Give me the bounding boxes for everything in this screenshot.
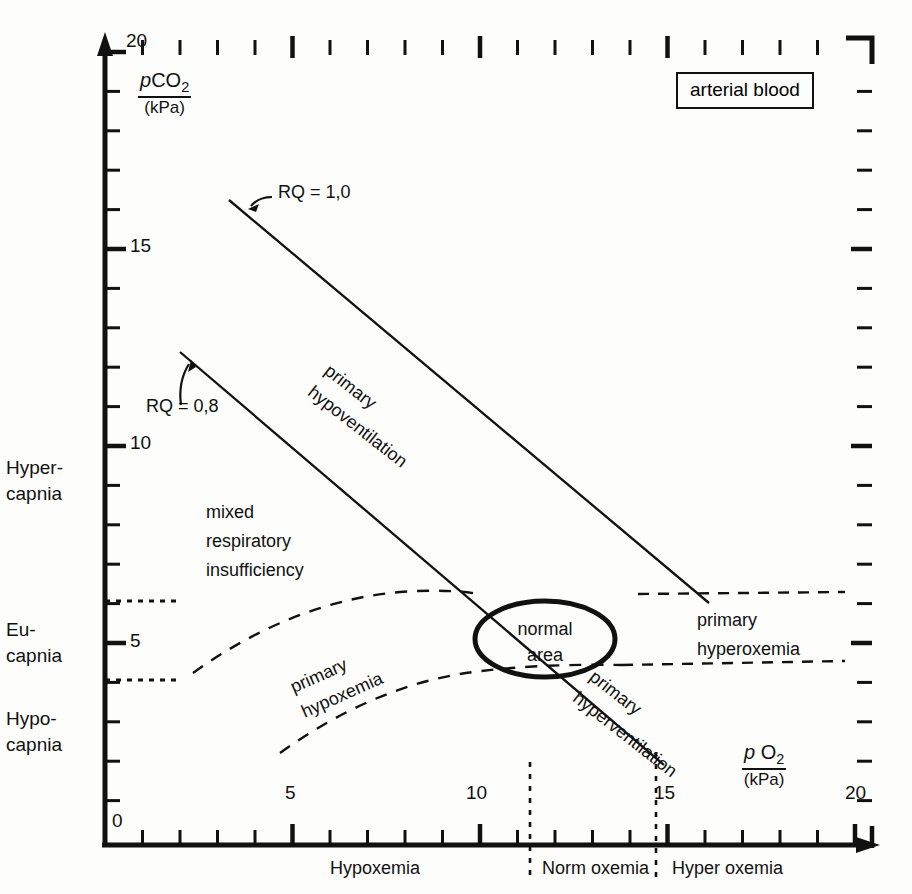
y-tick-label-10: 10 — [130, 432, 151, 454]
y-tick-label-0: 0 — [112, 810, 123, 832]
eucapnia-upper-line-right — [638, 592, 845, 594]
y-axis-symbol-p: p — [140, 69, 151, 91]
y-axis — [97, 32, 126, 845]
x-tick-label-5: 5 — [285, 782, 296, 804]
region-mixed-respiratory-insufficiency: mixed respiratory insufficiency — [206, 498, 304, 585]
region-normal-area-line2: area — [505, 643, 585, 669]
region-primary-hyperoxemia-line2: hyperoxemia — [697, 635, 800, 664]
figure-canvas: 20 15 10 5 0 5 10 15 20 pCO2 (kPa) p O2 … — [0, 0, 912, 894]
x-tick-label-20: 20 — [845, 782, 866, 804]
y-tick-label-5: 5 — [130, 630, 141, 652]
x-zone-normoxemia: Norm oxemia — [542, 858, 649, 879]
region-primary-hyperoxemia: primary hyperoxemia — [697, 606, 800, 664]
region-mixed-line1: mixed — [206, 498, 304, 527]
region-mixed-line3: insufficiency — [206, 556, 304, 585]
y-tick-label-20: 20 — [126, 30, 147, 52]
region-primary-hyperoxemia-line1: primary — [697, 606, 800, 635]
y-zone-eucapnia: Eu- capnia — [6, 617, 62, 668]
y-tick-label-15: 15 — [130, 235, 151, 257]
rq-lines — [180, 200, 709, 765]
y-axis-unit: (kPa) — [138, 98, 191, 117]
y-zone-hypercapnia: Hyper- capnia — [6, 455, 63, 506]
y-zone-hypocapnia-line1: Hypo- — [6, 706, 62, 732]
region-mixed-line2: respiratory — [206, 527, 304, 556]
y-zone-hypocapnia: Hypo- capnia — [6, 706, 62, 757]
x-axis-title: p O2 (kPa) — [742, 742, 786, 790]
primary-hypoxemia-curves — [193, 591, 622, 753]
x-axis-symbol-sub: 2 — [776, 751, 784, 767]
x-axis — [102, 824, 880, 853]
right-axis-ticks — [851, 91, 872, 848]
x-zone-hypoxemia: Hypoxemia — [330, 858, 420, 879]
y-axis-title: pCO2 (kPa) — [138, 70, 191, 118]
y-zone-hypercapnia-line1: Hyper- — [6, 455, 63, 481]
x-axis-symbol-p: p — [744, 741, 755, 763]
x-zone-hyperoxemia: Hyper oxemia — [672, 858, 783, 879]
y-zone-hypocapnia-line2: capnia — [6, 732, 62, 758]
region-normal-area: normal area — [505, 617, 585, 668]
top-axis-ticks — [143, 36, 873, 64]
x-tick-label-15: 15 — [654, 782, 675, 804]
rq-1-0-arrow — [251, 197, 272, 206]
y-axis-symbol-gas: CO — [151, 69, 181, 91]
y-zone-eucapnia-line2: capnia — [6, 643, 62, 669]
x-tick-label-10: 10 — [466, 782, 487, 804]
region-normal-area-line1: normal — [505, 617, 585, 643]
x-axis-symbol-gas: O — [761, 741, 777, 763]
x-axis-unit: (kPa) — [742, 770, 786, 789]
y-zone-eucapnia-line1: Eu- — [6, 617, 62, 643]
rq-1-0-label: RQ = 1,0 — [278, 182, 351, 203]
rq-0-8-label: RQ = 0,8 — [146, 396, 219, 417]
arterial-blood-badge: arterial blood — [676, 72, 814, 109]
y-axis-symbol-sub: 2 — [181, 79, 189, 95]
y-zone-hypercapnia-line2: capnia — [6, 481, 63, 507]
rq-label-arrows — [180, 197, 272, 405]
